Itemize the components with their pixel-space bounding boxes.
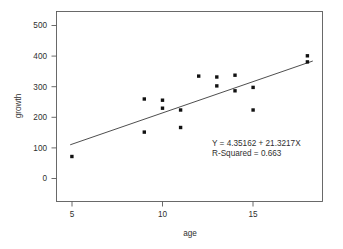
data-point bbox=[251, 86, 254, 89]
y-axis-ticks bbox=[52, 26, 57, 179]
data-point bbox=[197, 74, 200, 77]
data-point bbox=[161, 99, 164, 102]
data-point bbox=[215, 84, 218, 87]
data-point bbox=[70, 155, 73, 158]
data-point bbox=[161, 107, 164, 110]
data-point bbox=[251, 108, 254, 111]
y-tick-label-0: 0 bbox=[42, 174, 47, 183]
data-point bbox=[233, 74, 236, 77]
x-tick-label-10: 10 bbox=[158, 210, 168, 219]
data-point bbox=[143, 97, 146, 100]
data-point bbox=[233, 89, 236, 92]
r-squared-text: R-Squared = 0.663 bbox=[212, 149, 282, 158]
x-axis-title: age bbox=[183, 229, 197, 238]
data-point bbox=[306, 54, 309, 57]
regression-fit-line bbox=[70, 61, 313, 145]
plot-canvas: 500 400 300 200 100 0 5 10 15 age growth bbox=[0, 0, 343, 249]
data-point bbox=[143, 130, 146, 133]
x-tick-label-15: 15 bbox=[248, 210, 258, 219]
x-axis-tick-labels: 5 10 15 bbox=[70, 210, 258, 219]
y-axis-title: growth bbox=[14, 93, 23, 118]
y-tick-label-400: 400 bbox=[33, 52, 47, 61]
x-tick-label-5: 5 bbox=[70, 210, 75, 219]
x-axis-ticks bbox=[72, 202, 253, 207]
data-point bbox=[179, 108, 182, 111]
y-tick-label-300: 300 bbox=[33, 83, 47, 92]
y-axis-tick-labels: 500 400 300 200 100 0 bbox=[33, 21, 47, 183]
y-tick-label-100: 100 bbox=[33, 144, 47, 153]
scatter-plot-figure: 500 400 300 200 100 0 5 10 15 age growth bbox=[0, 0, 343, 249]
regression-annotation: Y = 4.35162 + 21.3217X R-Squared = 0.663 bbox=[212, 139, 301, 158]
y-tick-label-200: 200 bbox=[33, 113, 47, 122]
data-point bbox=[306, 60, 309, 63]
y-tick-label-500: 500 bbox=[33, 21, 47, 30]
regression-equation-text: Y = 4.35162 + 21.3217X bbox=[212, 139, 301, 148]
plot-frame bbox=[57, 12, 323, 202]
data-point bbox=[179, 126, 182, 129]
data-point bbox=[215, 75, 218, 78]
